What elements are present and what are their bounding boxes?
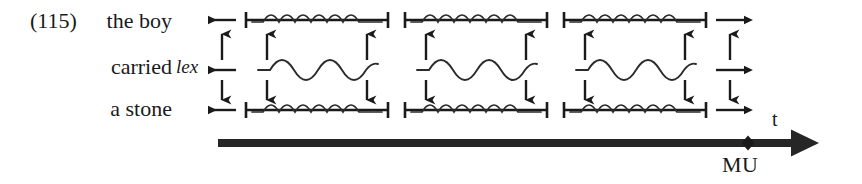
group-2-middle-wave bbox=[417, 60, 537, 80]
group-1-top-bracket bbox=[246, 12, 388, 28]
wave-group-2 bbox=[405, 12, 547, 118]
group-2-top-bracket bbox=[405, 12, 547, 28]
group-3-top-bracket bbox=[564, 12, 706, 28]
wave-group-3 bbox=[564, 12, 706, 118]
wave-group-1 bbox=[246, 12, 388, 118]
group-3-bottom-bracket bbox=[564, 102, 706, 118]
left-arrow-column bbox=[208, 20, 236, 110]
example-figure: (115) the boy carried a stone lex t MU bbox=[0, 0, 862, 184]
group-1-bottom-bracket bbox=[246, 102, 388, 118]
row-label-the-boy: the boy bbox=[18, 8, 172, 34]
row-label-carried: carried bbox=[18, 54, 172, 80]
group-1-middle-wave bbox=[258, 60, 378, 80]
group-2-bottom-bracket bbox=[405, 102, 547, 118]
lex-annotation: lex bbox=[176, 56, 198, 78]
group-3-middle-wave bbox=[576, 60, 696, 80]
mu-marker-tick bbox=[742, 136, 755, 151]
row-label-a-stone: a stone bbox=[18, 96, 172, 122]
right-arrow-column bbox=[716, 20, 744, 110]
mu-marker-label: MU bbox=[722, 152, 758, 178]
time-axis-label: t bbox=[772, 108, 778, 131]
time-axis bbox=[218, 136, 792, 151]
